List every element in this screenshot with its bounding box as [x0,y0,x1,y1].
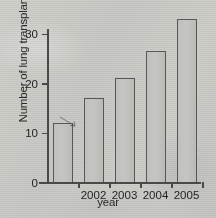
x-axis-tick [171,182,173,188]
x-axis-tick [78,182,80,188]
x-axis-tick-label: 2005 [174,189,200,201]
x-axis-tick [140,182,142,188]
bar [146,51,166,182]
y-axis-tick-label: 30 [25,28,38,40]
y-axis-tick-label: 10 [25,127,38,139]
y-axis-tick-label: 20 [25,78,38,90]
y-axis-title: Number of lung transplants [17,0,29,136]
bar-series [47,9,202,182]
x-axis-tick-label: 2003 [112,189,138,201]
x-axis-tick-label: 2002 [81,189,107,201]
bar [53,123,73,182]
y-axis-tick: 0 [42,182,48,184]
bar-chart-figure: Number of lung transplants year 0102030 … [0,0,216,218]
x-axis-tick-label: 2004 [143,189,169,201]
bar [115,78,135,182]
x-axis-tick [109,182,111,188]
bar [84,98,104,182]
plot-area: 0102030 2002200320042005 [47,9,202,183]
bar [177,19,197,182]
x-axis-line [39,182,201,184]
x-axis-tick [202,182,204,188]
y-axis-tick-label: 0 [32,177,38,189]
